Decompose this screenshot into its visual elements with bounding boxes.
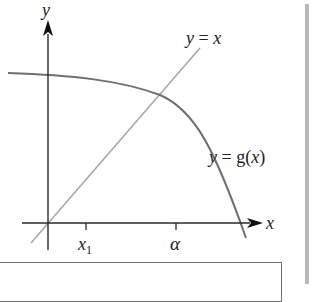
y-axis-arrow-icon [43, 20, 53, 36]
y-axis-label: y [40, 0, 50, 20]
x-axis-label: x [265, 213, 274, 233]
identity-line-label: y = x [184, 28, 221, 48]
side-rule [305, 4, 309, 284]
identity-line [31, 48, 200, 243]
g-curve-label: y = g(x) [207, 147, 265, 168]
answer-box [0, 262, 282, 302]
tick-label-alpha: α [170, 233, 181, 254]
tick-label-x1: x1 [77, 234, 92, 257]
